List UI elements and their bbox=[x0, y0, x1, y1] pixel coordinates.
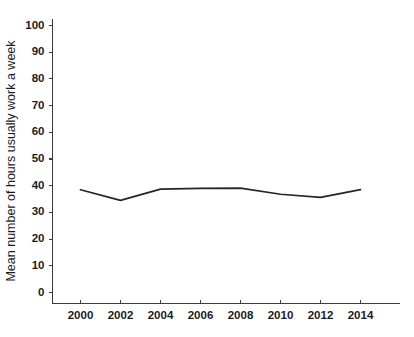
y-tick-label: 80 bbox=[32, 72, 45, 84]
x-tick-label: 2002 bbox=[108, 309, 134, 321]
y-tick-label: 10 bbox=[32, 259, 45, 271]
y-tick-label: 50 bbox=[32, 152, 45, 164]
y-tick-label: 70 bbox=[32, 99, 45, 111]
y-tick-label: 20 bbox=[32, 232, 45, 244]
x-tick-label: 2012 bbox=[308, 309, 334, 321]
y-tick-label: 90 bbox=[32, 45, 45, 57]
x-tick-label: 2006 bbox=[188, 309, 214, 321]
y-tick-label: 30 bbox=[32, 205, 45, 217]
x-tick-label: 2008 bbox=[228, 309, 254, 321]
y-tick-label: 100 bbox=[25, 19, 44, 31]
x-tick-label: 2010 bbox=[268, 309, 294, 321]
data-series-line bbox=[81, 188, 361, 200]
chart-container: 0102030405060708090100200020022004200620… bbox=[0, 0, 414, 337]
y-tick-label: 40 bbox=[32, 179, 45, 191]
y-axis-title: Mean number of hours usually work a week bbox=[4, 40, 18, 282]
y-tick-label: 60 bbox=[32, 125, 45, 137]
x-tick-label: 2004 bbox=[148, 309, 174, 321]
line-chart: 0102030405060708090100200020022004200620… bbox=[0, 0, 414, 337]
y-tick-label: 0 bbox=[38, 286, 44, 298]
x-tick-label: 2000 bbox=[68, 309, 94, 321]
x-tick-label: 2014 bbox=[348, 309, 374, 321]
